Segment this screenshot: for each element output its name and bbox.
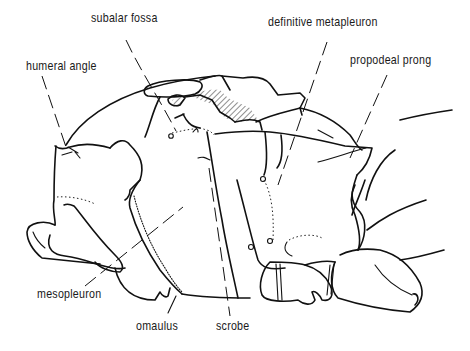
leader-humeral-angle — [42, 76, 67, 150]
label-humeral-angle: humeral angle — [26, 58, 97, 73]
label-propodeal-prong: propodeal prong — [350, 52, 431, 67]
label-mesopleuron: mesopleuron — [37, 286, 101, 301]
label-omaulus: omaulus — [136, 318, 178, 333]
leader-propodeal-prong — [350, 75, 387, 158]
leader-scrobe — [209, 168, 230, 316]
label-definitive-metapleuron: definitive metapleuron — [268, 14, 378, 29]
label-subalar-fossa: subalar fossa — [91, 10, 158, 25]
diagram-stage: subalar fossa humeral angle definitive m… — [0, 0, 470, 351]
leader-omaulus — [168, 296, 176, 313]
label-scrobe: scrobe — [216, 318, 249, 333]
